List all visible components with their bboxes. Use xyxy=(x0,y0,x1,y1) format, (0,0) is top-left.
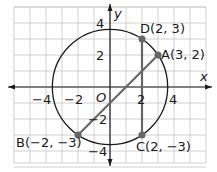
x-axis-right-arrow-icon xyxy=(205,85,212,90)
point-label-a: A(3, 2) xyxy=(161,47,205,62)
point-d xyxy=(139,36,146,43)
x-axis-left-arrow-icon xyxy=(8,85,15,90)
origin-label: O xyxy=(96,90,106,105)
coordinate-plane-diagram: x y O −4 −2 2 4 4 2 −2 −4 A(3, 2) B(−2, … xyxy=(0,0,217,172)
y-axis-label: y xyxy=(113,6,122,21)
x-tick-label-4: 4 xyxy=(169,92,177,107)
point-label-c: C(2, −3) xyxy=(136,139,191,154)
x-tick-label-neg4: −4 xyxy=(32,92,51,107)
y-tick-label-4: 4 xyxy=(96,16,104,31)
x-tick-label-neg2: −2 xyxy=(64,92,83,107)
point-c xyxy=(139,132,146,139)
y-tick-label-neg4: −4 xyxy=(88,144,107,159)
point-label-b: B(−2, −3) xyxy=(16,135,82,150)
x-axis-label: x xyxy=(199,69,208,84)
y-tick-label-neg2: −2 xyxy=(88,112,107,127)
diagram-canvas: x y O −4 −2 2 4 4 2 −2 −4 A(3, 2) B(−2, … xyxy=(0,0,217,172)
y-tick-label-2: 2 xyxy=(96,48,104,63)
point-label-d: D(2, 3) xyxy=(140,21,185,36)
x-tick-label-2: 2 xyxy=(137,92,145,107)
